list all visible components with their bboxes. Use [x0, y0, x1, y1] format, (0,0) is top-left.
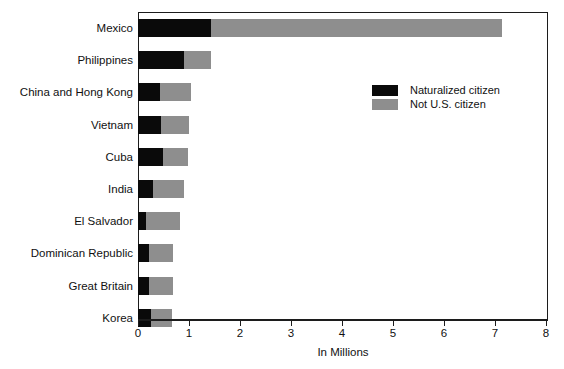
x-axis-tick-label: 8: [531, 326, 561, 340]
y-axis-tick-label: El Salvador: [0, 215, 133, 227]
y-axis-tick-label: China and Hong Kong: [0, 86, 133, 98]
bar-segment-not-us-citizen: [149, 277, 172, 295]
x-axis-tick-label: 2: [225, 326, 255, 340]
legend-swatch-icon-naturalized: [372, 85, 398, 96]
bar-row: [138, 19, 548, 37]
bar-segment-not-us-citizen: [161, 116, 189, 134]
bar-segment-not-us-citizen: [160, 83, 191, 101]
bar-segment-not-us-citizen: [163, 148, 188, 166]
y-axis-category-labels: MexicoPhilippinesChina and Hong KongViet…: [0, 12, 133, 320]
bar-row: [138, 51, 548, 69]
bar-segment-naturalized: [138, 116, 161, 134]
bar-segment-naturalized: [138, 244, 149, 262]
bar-segment-not-us-citizen: [153, 180, 184, 198]
y-axis-tick-label: Dominican Republic: [0, 247, 133, 259]
bar-segment-naturalized: [138, 277, 149, 295]
bar-row: [138, 180, 548, 198]
bar-segment-not-us-citizen: [184, 51, 211, 69]
x-axis-tick-label: 5: [378, 326, 408, 340]
bar-row: [138, 116, 548, 134]
bars-layer: [138, 12, 548, 320]
y-axis-tick-label: Korea: [0, 312, 133, 324]
x-axis-tick-label: 7: [480, 326, 510, 340]
bar-segment-naturalized: [138, 309, 151, 327]
x-axis-tick-label: 1: [174, 326, 204, 340]
x-axis-tick-label: 0: [123, 326, 153, 340]
y-axis-tick-label: Vietnam: [0, 119, 133, 131]
x-axis-tick-label: 6: [429, 326, 459, 340]
y-axis-tick-label: India: [0, 183, 133, 195]
x-axis-title: In Millions: [138, 345, 548, 359]
bar-row: [138, 244, 548, 262]
y-axis-tick-label: Great Britain: [0, 280, 133, 292]
y-axis-tick-label: Philippines: [0, 54, 133, 66]
x-axis-tick-label: 4: [327, 326, 357, 340]
bar-segment-not-us-citizen: [149, 244, 173, 262]
bar-row: [138, 148, 548, 166]
bar-segment-naturalized: [138, 83, 160, 101]
x-axis-tick-label: 3: [276, 326, 306, 340]
legend-label-not-us-citizen: Not U.S. citizen: [410, 98, 486, 111]
chart-container: MexicoPhilippinesChina and Hong KongViet…: [0, 0, 564, 369]
page-caption-strip: [0, 360, 564, 369]
y-axis-tick-label: Mexico: [0, 22, 133, 34]
bar-segment-naturalized: [138, 212, 146, 230]
legend-label-naturalized: Naturalized citizen: [410, 84, 500, 97]
bar-segment-not-us-citizen: [151, 309, 172, 327]
bar-segment-not-us-citizen: [146, 212, 180, 230]
bar-segment-naturalized: [138, 180, 153, 198]
bar-segment-naturalized: [138, 19, 211, 37]
bar-segment-not-us-citizen: [211, 19, 502, 37]
bar-row: [138, 212, 548, 230]
bar-row: [138, 277, 548, 295]
legend-swatch-icon-not-us-citizen: [372, 99, 398, 110]
bar-segment-naturalized: [138, 148, 163, 166]
bar-segment-naturalized: [138, 51, 184, 69]
y-axis-tick-label: Cuba: [0, 151, 133, 163]
